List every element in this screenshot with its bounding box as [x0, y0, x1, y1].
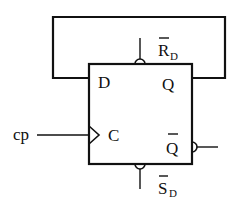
- reset-subscript: D: [170, 50, 178, 62]
- reset-label: R: [158, 41, 170, 60]
- qbar-output-label: Q: [166, 139, 178, 158]
- set-subscript: D: [169, 187, 177, 199]
- q-output-label: Q: [162, 75, 174, 94]
- d-input-label: D: [98, 73, 110, 92]
- clock-input-label: C: [108, 126, 119, 145]
- feedback-wire: [53, 17, 225, 78]
- clock-edge-icon: [89, 126, 99, 144]
- cp-label: cp: [13, 125, 29, 144]
- d-flip-flop-diagram: D Q C Q cp R D S D: [0, 0, 240, 216]
- set-label: S: [158, 179, 167, 198]
